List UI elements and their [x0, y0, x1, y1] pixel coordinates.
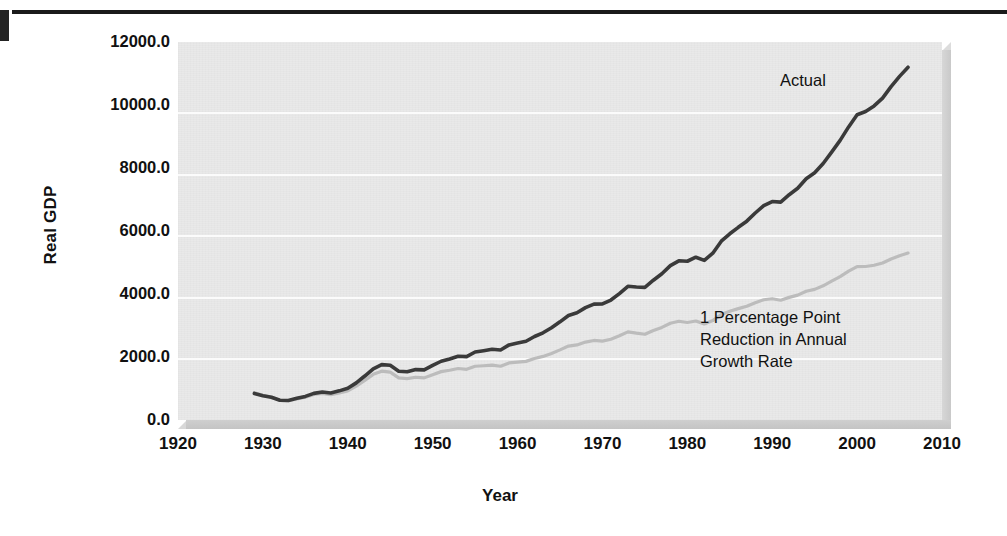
x-axis-tick-1980: 1980 [647, 434, 727, 454]
x-axis-tick-1990: 1990 [732, 434, 812, 454]
x-axis-tick-1960: 1960 [478, 434, 558, 454]
x-axis-tick-2000: 2000 [817, 434, 897, 454]
figure-root: Actual 1 Percentage Point Reduction in A… [0, 0, 1007, 536]
y-axis-tick-10000-0: 10000.0 [50, 95, 170, 114]
y-axis-title: Real GDP [41, 165, 61, 285]
panel-bevel-bottom [186, 420, 951, 429]
x-axis-tick-1920: 1920 [138, 434, 218, 454]
annotation-actual: Actual [780, 70, 826, 92]
x-axis-tick-1930: 1930 [223, 434, 303, 454]
x-axis-tick-2010: 2010 [902, 434, 982, 454]
y-axis-tick-0-0: 0.0 [50, 410, 170, 429]
x-axis-title: Year [420, 486, 580, 506]
x-axis-tick-1940: 1940 [308, 434, 388, 454]
y-axis-tick-2000-0: 2000.0 [50, 347, 170, 366]
x-axis-tick-1950: 1950 [393, 434, 473, 454]
y-axis-tick-12000-0: 12000.0 [50, 32, 170, 51]
x-axis-tick-1970: 1970 [562, 434, 642, 454]
panel-bevel-right [942, 50, 951, 428]
y-axis-tick-4000-0: 4000.0 [50, 284, 170, 303]
y-axis-tick-6000-0: 6000.0 [50, 221, 170, 240]
annotation-reduced: 1 Percentage Point Reduction in Annual G… [700, 307, 847, 372]
page-left-marker [0, 10, 9, 41]
y-axis-tick-labels: 0.02000.04000.06000.08000.010000.012000.… [42, 0, 170, 470]
y-axis-tick-8000-0: 8000.0 [50, 158, 170, 177]
